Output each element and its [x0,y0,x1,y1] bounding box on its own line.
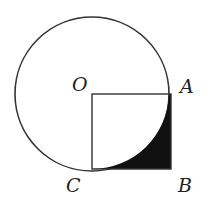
label-a: A [178,75,194,97]
geometry-diagram: O A C B [0,0,215,201]
shaded-region [92,94,171,169]
label-o: O [72,73,88,95]
label-b: B [177,174,192,196]
label-c: C [66,174,81,196]
